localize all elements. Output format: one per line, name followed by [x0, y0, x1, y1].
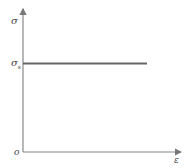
y-axis-label: σ — [11, 15, 19, 26]
stress-strain-diagram: σ σs o ε — [0, 0, 187, 168]
origin-label: o — [14, 147, 20, 157]
yield-stress-label: σs — [11, 57, 21, 70]
x-axis-label: ε — [174, 155, 179, 165]
